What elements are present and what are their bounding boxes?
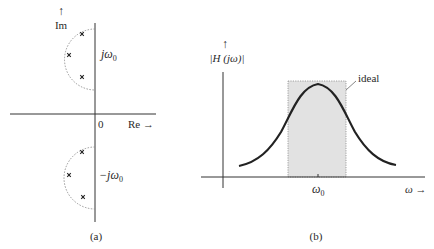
caption-a: (a) xyxy=(90,230,103,243)
im-axis-arrow: ↑ xyxy=(58,4,64,18)
filter-diagram: ↑ Im 0 Re → jω0 −jω0 (a) xyxy=(0,0,434,249)
pole-marker-icon xyxy=(81,195,85,199)
lower-poles xyxy=(67,150,85,199)
magnitude-axis-label: |H (jω)| xyxy=(210,52,245,65)
origin-label: 0 xyxy=(98,118,104,130)
upper-poles xyxy=(67,32,84,79)
lower-pole-arc xyxy=(64,147,95,209)
pole-marker-icon xyxy=(80,32,84,36)
ideal-label: ideal xyxy=(358,72,379,84)
omega0-label: ω0 xyxy=(312,182,324,198)
pole-marker-icon xyxy=(80,150,84,154)
caption-b: (b) xyxy=(310,230,323,243)
frequency-axis-label: ω → xyxy=(405,183,427,195)
upper-pole-arc xyxy=(65,29,95,90)
pole-zero-plot: ↑ Im 0 Re → jω0 −jω0 (a) xyxy=(10,4,156,243)
lower-pole-label: −jω0 xyxy=(99,168,123,184)
ideal-leader-line xyxy=(346,81,356,90)
upper-pole-label: jω0 xyxy=(99,47,117,63)
im-axis-label: Im xyxy=(55,19,68,31)
pole-marker-icon xyxy=(80,75,84,79)
ideal-passband xyxy=(288,81,346,177)
re-axis-label: Re → xyxy=(128,118,154,130)
pole-marker-icon xyxy=(67,53,71,57)
magnitude-response-plot: ideal ↑ |H (jω)| ω0 ω → (b) xyxy=(201,37,427,243)
magnitude-axis-arrow: ↑ xyxy=(222,37,228,51)
pole-marker-icon xyxy=(67,173,71,177)
